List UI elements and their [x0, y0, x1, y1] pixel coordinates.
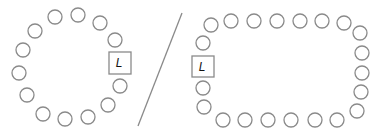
- seating-diagram: L L: [0, 0, 378, 135]
- round-table-seat-icon: [58, 112, 72, 126]
- round-table-seat-icon: [20, 88, 34, 102]
- rect-table-seat-icon: [224, 14, 238, 28]
- round-table-seat-icon: [93, 16, 107, 30]
- round-table-leader-label: L: [116, 56, 123, 70]
- rect-table-seat-icon: [196, 81, 210, 95]
- round-table-seat-icon: [71, 8, 85, 22]
- rect-table-seat-icon: [238, 113, 252, 127]
- rect-table-seat-icon: [355, 66, 369, 80]
- rect-table-seat-icon: [196, 36, 210, 50]
- round-table-seat-icon: [16, 43, 30, 57]
- round-table-seat-icon: [28, 24, 42, 38]
- rect-table-seat-icon: [270, 14, 284, 28]
- round-table-seat-icon: [108, 33, 122, 47]
- rect-table-seat-icon: [197, 100, 211, 114]
- rect-table-seat-icon: [315, 14, 329, 28]
- rect-table-leader-label: L: [199, 60, 206, 74]
- rect-table-seat-icon: [355, 46, 369, 60]
- rect-table-seat-icon: [308, 113, 322, 127]
- round-table-seat-icon: [36, 107, 50, 121]
- rect-table-seat-icon: [354, 85, 368, 99]
- rect-table-seat-icon: [350, 104, 364, 118]
- rect-table-seat-icon: [204, 18, 218, 32]
- round-table-seat-icon: [101, 98, 115, 112]
- round-table-seat-icon: [12, 66, 26, 80]
- rect-table-seat-icon: [330, 113, 344, 127]
- rect-table-seat-icon: [353, 26, 367, 40]
- rect-table-seat-icon: [293, 14, 307, 28]
- rect-table-seat-icon: [337, 16, 351, 30]
- divider-slash: [138, 13, 182, 126]
- rect-table-seat-icon: [261, 113, 275, 127]
- rect-table-seat-icon: [216, 113, 230, 127]
- round-table-seat-icon: [81, 110, 95, 124]
- rect-table-group: L: [192, 14, 369, 127]
- rect-table-seat-icon: [284, 113, 298, 127]
- rect-table-seat-icon: [247, 14, 261, 28]
- round-table-seat-icon: [113, 79, 127, 93]
- round-table-group: L: [12, 8, 131, 126]
- round-table-seat-icon: [48, 10, 62, 24]
